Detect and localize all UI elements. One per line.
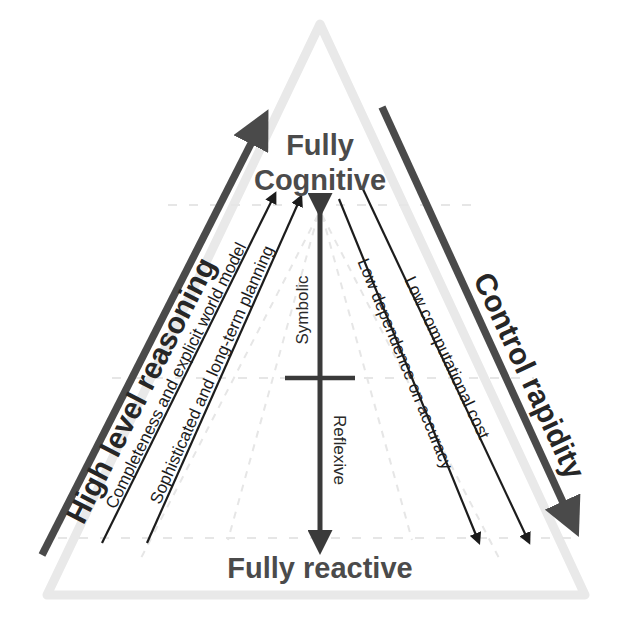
pole-label-bottom: Fully reactive — [227, 552, 412, 584]
pole-label-top-line2: Cognitive — [254, 164, 386, 196]
center-axis-arrow — [285, 208, 355, 545]
center-axis-upper-label: Symbolic — [293, 275, 312, 344]
pole-label-top-line1: Fully — [286, 129, 354, 161]
right-axis-arrow — [382, 107, 572, 522]
center-axis-lower-label: Reflexive — [330, 415, 349, 485]
spectrum-triangle-figure: High level reasoning Control rapidity Co… — [0, 0, 618, 627]
diagram-root: High level reasoning Control rapidity Co… — [0, 0, 618, 627]
